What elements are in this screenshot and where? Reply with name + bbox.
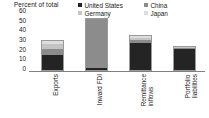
legend-label-united-states: United States xyxy=(85,2,123,9)
y-tick-0: 0 xyxy=(22,65,26,72)
stacked-bar-chart: Percent of total United States China Ger… xyxy=(0,0,209,118)
cat-slot-2: Remittance inflows xyxy=(118,73,162,118)
y-tick-60: 60 xyxy=(19,7,26,14)
category-label: Inward FDI xyxy=(96,74,103,105)
legend-item-united-states: United States xyxy=(78,2,140,9)
bar-segment xyxy=(42,55,63,70)
x-axis-baseline xyxy=(29,71,205,72)
y-tick-50: 50 xyxy=(19,16,26,23)
cat-slot-3: Portfolio liabilities xyxy=(162,73,206,118)
y-tick-20: 20 xyxy=(19,45,26,52)
x-axis-category-labels: ExportsInward FDIRemittance inflowsPortf… xyxy=(30,73,206,118)
bar-segment xyxy=(174,49,195,70)
stacked-bar[interactable] xyxy=(173,46,196,71)
legend-swatch-united-states xyxy=(78,3,82,7)
category-label: Remittance inflows xyxy=(140,74,154,106)
legend-label-china: China xyxy=(151,2,168,9)
category-label: Exports xyxy=(52,74,59,96)
y-tick-10: 10 xyxy=(19,55,26,62)
bar-segment xyxy=(86,19,107,68)
cat-slot-0: Exports xyxy=(30,73,74,118)
bar-slot-0 xyxy=(30,13,74,71)
stacked-bar[interactable] xyxy=(129,35,152,71)
bar-slot-2 xyxy=(118,13,162,71)
y-tick-30: 30 xyxy=(19,36,26,43)
cat-slot-1: Inward FDI xyxy=(74,73,118,118)
bar-group xyxy=(30,13,206,71)
stacked-bar[interactable] xyxy=(85,18,108,71)
bar-slot-3 xyxy=(162,13,206,71)
bar-slot-1 xyxy=(74,13,118,71)
legend-item-china: China xyxy=(144,2,200,9)
y-axis-tick-labels: 6050403020100 xyxy=(0,10,28,71)
bar-segment xyxy=(130,43,151,70)
legend-swatch-china xyxy=(144,3,148,7)
bar-segment xyxy=(86,68,107,70)
category-label: Portfolio liabilities xyxy=(184,74,198,98)
stacked-bar[interactable] xyxy=(41,40,64,71)
y-tick-40: 40 xyxy=(19,26,26,33)
